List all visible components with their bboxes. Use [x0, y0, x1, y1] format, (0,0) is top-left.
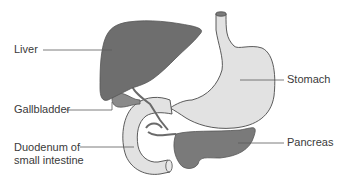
- label-gallbladder: Gallbladder: [14, 103, 70, 116]
- label-duodenum: Duodenum of small intestine: [14, 141, 84, 167]
- pancreas-shape: [174, 128, 255, 169]
- digestive-diagram: Liver Gallbladder Duodenum of small inte…: [0, 0, 342, 186]
- label-pancreas: Pancreas: [287, 136, 333, 149]
- label-liver: Liver: [14, 43, 38, 56]
- liver-shape: [100, 21, 202, 101]
- label-duodenum-line2: small intestine: [14, 154, 84, 167]
- label-duodenum-line1: Duodenum of: [14, 141, 84, 154]
- label-stomach: Stomach: [287, 73, 330, 86]
